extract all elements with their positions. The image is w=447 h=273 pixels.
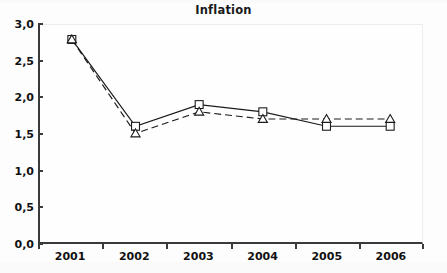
chart-title: Inflation: [0, 3, 447, 17]
series-line-square: [72, 39, 390, 126]
x-tick-label: 2004: [247, 250, 278, 263]
y-tick-label: 1,0: [2, 164, 34, 177]
x-tick-mark: [359, 244, 361, 249]
y-tick-mark: [38, 133, 43, 135]
x-tick-label: 2006: [376, 250, 407, 263]
y-axis: 0,00,51,01,52,02,53,0: [0, 24, 34, 244]
x-tick-label: 2002: [119, 250, 150, 263]
plot-area: [38, 24, 423, 244]
y-tick-mark: [38, 23, 43, 25]
y-tick-mark: [38, 60, 43, 62]
data-point-marker-square: [323, 122, 331, 130]
y-tick-label: 2,5: [2, 54, 34, 67]
y-tick-label: 0,0: [2, 238, 34, 251]
y-tick-mark: [38, 206, 43, 208]
y-tick-label: 1,5: [2, 128, 34, 141]
x-tick-mark: [231, 244, 233, 249]
data-point-marker-square: [386, 122, 394, 130]
x-tick-mark: [422, 244, 424, 249]
x-tick-mark: [295, 244, 297, 249]
x-axis: 200120022003200420052006: [38, 250, 423, 270]
x-tick-label: 2001: [55, 250, 86, 263]
x-tick-mark: [38, 244, 40, 249]
data-point-marker-triangle: [386, 114, 395, 122]
y-tick-label: 2,0: [2, 91, 34, 104]
x-tick-mark: [102, 244, 104, 249]
y-tick-mark: [38, 96, 43, 98]
series-line-triangle: [72, 39, 390, 133]
y-tick-mark: [38, 170, 43, 172]
inflation-line-chart: Inflation 0,00,51,01,52,02,53,0 20012002…: [0, 0, 447, 273]
y-tick-label: 0,5: [2, 201, 34, 214]
series-plot: [40, 25, 422, 242]
y-tick-label: 3,0: [2, 18, 34, 31]
x-tick-label: 2005: [311, 250, 342, 263]
x-tick-mark: [166, 244, 168, 249]
x-tick-label: 2003: [183, 250, 214, 263]
